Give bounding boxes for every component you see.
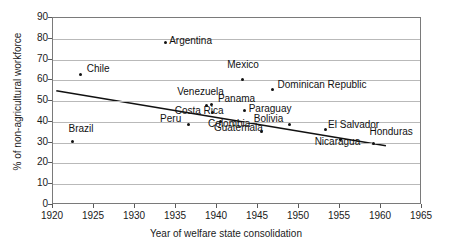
x-axis-title: Year of welfare state consolidation [0,228,452,239]
x-tick-mark [93,204,94,208]
data-point-label: Venezuela [177,87,224,97]
y-tick-label: 80 [24,33,48,43]
x-tick-label: 1955 [319,210,359,221]
data-point-marker [288,123,291,126]
scatter-chart: Year of welfare state consolidation % of… [0,0,452,246]
data-point-label: Paraguay [249,104,292,114]
plot-area [52,17,421,204]
x-tick-mark [216,204,217,208]
y-tick-label: 10 [24,178,48,188]
x-tick-mark [52,204,53,208]
y-tick-label: 90 [24,12,48,22]
y-tick-mark [48,17,52,18]
y-tick-mark [48,38,52,39]
data-point-label: Chile [87,64,110,74]
data-point-label: Honduras [369,127,412,137]
x-tick-label: 1935 [155,210,195,221]
gridline [53,39,420,40]
data-point-label: Dominican Republic [278,80,367,90]
data-point-label: Brazil [69,124,94,134]
gridline [53,143,420,144]
y-tick-label: 50 [24,95,48,105]
data-point-label: Argentina [169,36,212,46]
y-tick-label: 60 [24,74,48,84]
x-tick-label: 1965 [401,210,441,221]
x-tick-label: 1940 [196,210,236,221]
gridline [53,163,420,164]
x-tick-label: 1920 [32,210,72,221]
x-tick-label: 1950 [278,210,318,221]
y-tick-mark [48,162,52,163]
x-tick-mark [134,204,135,208]
data-point-label: Nicaragua [315,137,361,147]
y-tick-mark [48,142,52,143]
x-tick-mark [298,204,299,208]
x-tick-mark [257,204,258,208]
y-tick-label: 0 [24,199,48,209]
x-tick-mark [175,204,176,208]
trendline [53,18,422,205]
y-tick-label: 30 [24,137,48,147]
gridline [53,184,420,185]
y-tick-label: 40 [24,116,48,126]
data-point-marker [324,128,327,131]
data-point-marker [79,73,82,76]
x-tick-label: 1960 [360,210,400,221]
x-tick-label: 1945 [237,210,277,221]
data-point-marker [187,123,190,126]
x-tick-mark [380,204,381,208]
x-tick-mark [421,204,422,208]
x-tick-label: 1930 [114,210,154,221]
y-tick-mark [48,183,52,184]
data-point-marker [241,78,244,81]
data-point-label: Costa Rica [175,106,224,116]
data-point-label: Mexico [227,60,259,70]
y-axis-title: % of non-agricultural workforce [12,12,23,192]
data-point-label: Guatemala [214,123,263,133]
y-tick-mark [48,121,52,122]
data-point-label: Bolivia [254,114,283,124]
x-tick-mark [339,204,340,208]
y-tick-mark [48,59,52,60]
y-tick-mark [48,79,52,80]
y-tick-label: 20 [24,157,48,167]
y-tick-label: 70 [24,54,48,64]
y-tick-mark [48,100,52,101]
x-tick-label: 1925 [73,210,113,221]
